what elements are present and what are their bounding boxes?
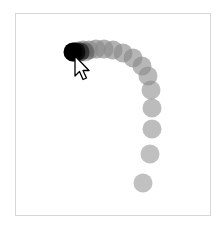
trail-dots [65, 40, 162, 193]
mouse-trail [0, 0, 223, 228]
trail-dot [141, 145, 160, 164]
canvas [0, 0, 223, 228]
trail-dot [143, 120, 162, 139]
trail-dot [134, 174, 153, 193]
trail-dot [143, 99, 162, 118]
trail-head [64, 43, 95, 62]
trail-head-dot [76, 43, 95, 62]
